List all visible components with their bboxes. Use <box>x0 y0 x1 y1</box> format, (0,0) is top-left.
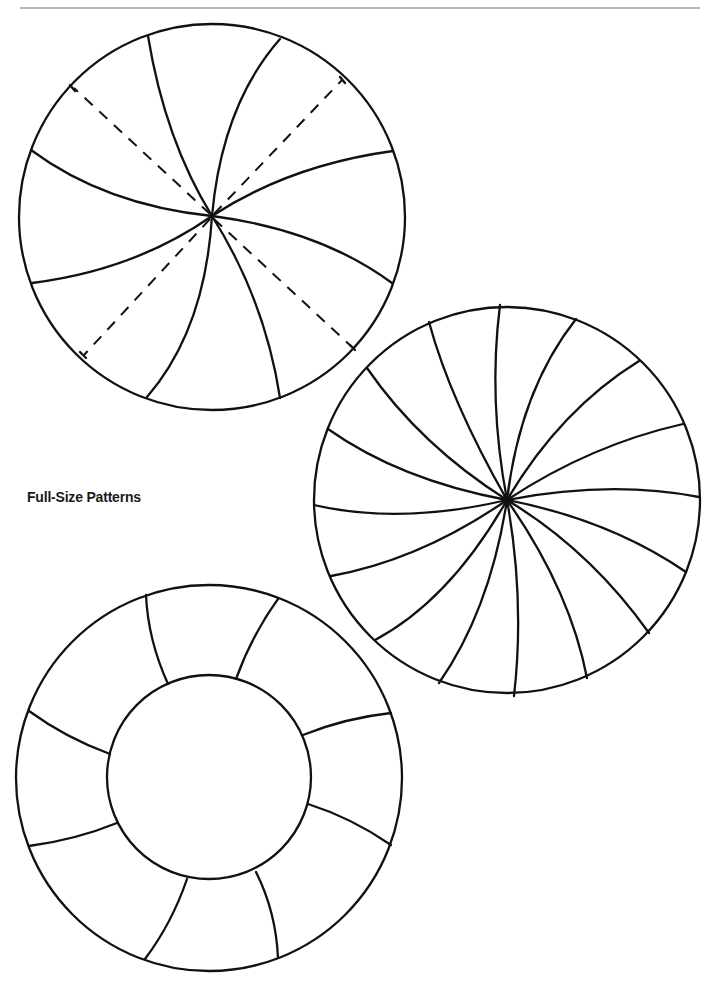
swirl-lines <box>31 36 393 398</box>
swirl-pattern-8 <box>19 24 405 410</box>
swirl-pattern-16 <box>314 305 700 696</box>
ring-pattern-8 <box>16 585 402 971</box>
ring-spokes <box>29 595 391 959</box>
pattern-outline <box>16 585 402 971</box>
center-circle <box>107 675 311 879</box>
pattern-sheet <box>0 0 719 988</box>
